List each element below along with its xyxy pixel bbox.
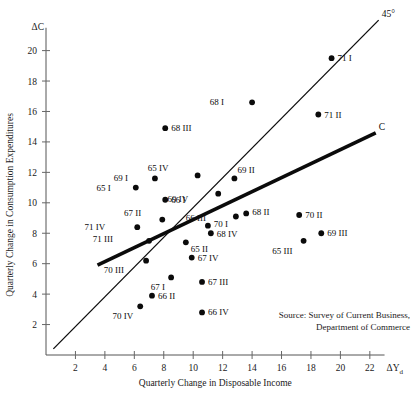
data-point [168, 274, 174, 280]
data-points-group: 68 III71 I68 I71 II69 I65 I65 IV69 II66 … [85, 53, 352, 321]
y-axis-title: Quarterly Change in Consumption Expendit… [5, 113, 15, 297]
x-axis-tick-label: 10 [188, 363, 198, 373]
y-axis-tick-label: 12 [28, 168, 38, 178]
data-point [183, 239, 189, 245]
data-point-label: 67 IV [198, 253, 219, 263]
data-point-label: 69 IV [167, 194, 188, 204]
data-point-label: 69 I [114, 173, 128, 183]
consumption-function-line [98, 133, 376, 265]
data-point [189, 255, 195, 261]
y-axis-tick-label: 6 [32, 259, 37, 269]
data-point [137, 303, 143, 309]
data-point [233, 214, 239, 220]
y-axis-tick-label: 16 [28, 107, 38, 117]
y-axis-tick-label: 8 [32, 229, 37, 239]
data-point [199, 309, 205, 315]
y-axis-tick-label: 10 [28, 198, 38, 208]
data-point-label: 69 II [237, 165, 254, 175]
data-point-label: 65 I [97, 183, 111, 193]
data-point [296, 212, 302, 218]
x-axis-tick-label: 2 [73, 363, 78, 373]
data-point [215, 191, 221, 197]
x-axis-tick-label: 4 [103, 363, 108, 373]
data-point-label: 65 IV [148, 163, 169, 173]
plot-area: 2468101214161820246810121416182022 45°C … [0, 0, 419, 409]
data-point [195, 173, 201, 179]
data-point [143, 258, 149, 264]
source-note-line1: Source: Survey of Current Business, [279, 310, 410, 320]
data-point [301, 238, 307, 244]
data-point-label: 66 III [186, 213, 206, 223]
x-axis-tick-label: 12 [218, 363, 228, 373]
data-point-label: 71 III [93, 234, 113, 244]
data-point [329, 55, 335, 61]
x-axis-tick-label: 14 [247, 363, 257, 373]
scatter-chart: 2468101214161820246810121416182022 45°C … [0, 0, 419, 409]
45-degree-line-label: 45° [382, 9, 396, 19]
data-point-label: 66 IV [208, 307, 229, 317]
x-axis-symbol: ΔYd [387, 363, 404, 376]
x-axis-tick-label: 8 [161, 363, 166, 373]
data-point-label: 70 I [214, 219, 228, 229]
y-axis-tick-label: 18 [28, 77, 38, 87]
data-point [149, 293, 155, 299]
x-axis-title: Quarterly Change in Disposable Income [139, 378, 292, 388]
data-point [152, 176, 158, 182]
data-point-label: 71 I [338, 53, 352, 63]
data-point [146, 238, 152, 244]
data-point [199, 279, 205, 285]
data-point [159, 217, 165, 223]
y-axis-symbol: ΔC [32, 22, 44, 32]
data-point [205, 223, 211, 229]
data-point [133, 185, 139, 191]
data-point [243, 211, 249, 217]
data-point-label: 70 III [104, 265, 124, 275]
x-axis-tick-label: 18 [306, 363, 316, 373]
annotations-group: ΔCΔYdQuarterly Change in Disposable Inco… [5, 22, 410, 388]
data-point-label: 68 IV [217, 229, 238, 239]
x-axis-tick-label: 22 [365, 363, 375, 373]
data-point [249, 99, 255, 105]
data-point [318, 230, 324, 236]
y-axis-tick-label: 4 [32, 290, 37, 300]
data-point-label: 70 IV [112, 311, 133, 321]
data-point-label: 68 II [252, 207, 269, 217]
data-point-label: 68 I [210, 97, 224, 107]
source-note-line2: Department of Commerce [316, 322, 410, 332]
data-point-label: 66 II [158, 291, 175, 301]
data-point-label: 67 III [208, 277, 228, 287]
data-point [208, 230, 214, 236]
data-point [134, 224, 140, 230]
data-point-label: 71 IV [85, 222, 106, 232]
x-axis-tick-label: 20 [336, 363, 346, 373]
data-point-label: 68 III [171, 123, 191, 133]
data-point [315, 112, 321, 118]
data-point-label: 69 III [327, 228, 347, 238]
data-point-label: 70 II [305, 210, 322, 220]
y-axis-tick-label: 20 [28, 46, 38, 56]
y-axis-tick-label: 14 [28, 137, 38, 147]
y-axis-tick-label: 2 [32, 320, 37, 330]
data-point [232, 176, 238, 182]
data-point-label: 67 II [124, 208, 141, 218]
data-point-label: 65 III [272, 246, 292, 256]
x-axis-tick-label: 16 [277, 363, 287, 373]
consumption-function-line-label: C [379, 122, 385, 132]
x-axis-tick-label: 6 [132, 363, 137, 373]
data-point [162, 125, 168, 131]
data-point-label: 71 II [324, 110, 341, 120]
